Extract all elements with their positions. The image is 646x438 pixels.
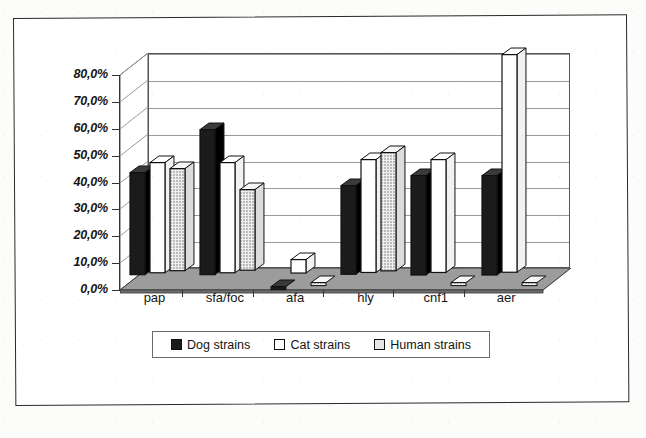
gridline-depth-connector xyxy=(120,134,150,158)
legend-label-human: Human strains xyxy=(390,338,471,352)
legend-swatch-human-icon xyxy=(374,339,385,350)
y-axis-tick-label: 50,0% xyxy=(50,148,108,162)
bar-cnf1-cat xyxy=(431,153,457,274)
x-axis-tick xyxy=(253,290,254,297)
y-axis-tick xyxy=(112,209,120,210)
bar-chart: 0,0%10,0%20,0%30,0%40,0%50,0%60,0%70,0%8… xyxy=(0,0,646,438)
y-axis-tick xyxy=(112,236,120,237)
y-axis-tick xyxy=(112,75,120,76)
gridline-depth-connector xyxy=(120,80,150,104)
x-axis-tick xyxy=(464,290,465,297)
y-axis-tick xyxy=(112,102,120,103)
y-axis-tick xyxy=(112,129,120,130)
bar-hly-human xyxy=(381,146,407,273)
legend-item-human: Human strains xyxy=(374,338,471,352)
gridline-depth-connector xyxy=(120,53,150,77)
gridline-depth-connector xyxy=(120,107,150,131)
bar-cnf1-human xyxy=(451,276,477,289)
bar-sfa-foc-human xyxy=(240,183,266,272)
bar-afa-cat xyxy=(291,253,317,275)
y-axis-tick-label: 70,0% xyxy=(50,94,108,108)
bar-afa-human xyxy=(311,276,337,289)
y-axis-tick-label: 80,0% xyxy=(50,67,108,81)
legend-item-dog: Dog strains xyxy=(171,338,250,352)
y-axis-tick xyxy=(112,156,120,157)
legend-swatch-cat-icon xyxy=(274,339,285,350)
x-axis-tick xyxy=(182,290,183,297)
legend-label-cat: Cat strains xyxy=(290,338,350,352)
legend-item-cat: Cat strains xyxy=(274,338,350,352)
bar-aer-cat xyxy=(502,48,528,274)
y-axis-tick-label: 20,0% xyxy=(50,228,108,242)
x-axis-tick xyxy=(393,290,394,297)
y-axis-tick-label: 30,0% xyxy=(50,201,108,215)
y-axis-tick xyxy=(112,183,120,184)
y-axis-tick-label: 0,0% xyxy=(50,282,108,296)
bar-aer-human xyxy=(522,276,548,289)
scanned-chart-page: 0,0%10,0%20,0%30,0%40,0%50,0%60,0%70,0%8… xyxy=(0,0,646,438)
y-axis-tick-label: 40,0% xyxy=(50,175,108,189)
y-axis-tick-label: 60,0% xyxy=(50,121,108,135)
legend-swatch-dog-icon xyxy=(171,339,182,350)
x-axis-label-aer: aer xyxy=(468,290,545,305)
x-axis-tick xyxy=(323,290,324,297)
y-axis-tick-label: 10,0% xyxy=(50,255,108,269)
chart-legend: Dog strains Cat strains Human strains xyxy=(152,331,490,358)
bar-pap-human xyxy=(170,162,196,273)
legend-label-dog: Dog strains xyxy=(187,338,250,352)
y-axis-tick xyxy=(112,263,120,264)
plot-area: 0,0%10,0%20,0%30,0%40,0%50,0%60,0%70,0%8… xyxy=(0,0,646,438)
